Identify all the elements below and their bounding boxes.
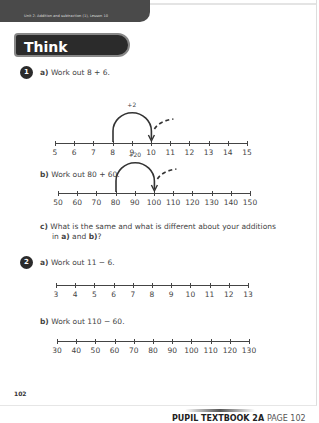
part-label: a): [40, 258, 49, 267]
footer-shadow: [185, 409, 255, 412]
tick-mark: [74, 141, 75, 146]
tick-mark: [75, 283, 76, 288]
tick-label: 13: [243, 290, 253, 299]
tick-mark: [212, 191, 213, 196]
tick-mark: [58, 191, 59, 196]
tick-label: 4: [73, 290, 78, 299]
tick-mark: [247, 141, 248, 146]
tick-label: 12: [224, 290, 234, 299]
tick-mark: [210, 283, 211, 288]
top-rule: [150, 3, 316, 5]
tick-mark: [56, 283, 57, 288]
tick-label: 6: [111, 290, 116, 299]
tick-mark: [172, 339, 173, 344]
tick-label: 5: [53, 148, 58, 157]
tick-mark: [77, 191, 78, 196]
tick-mark: [114, 283, 115, 288]
footer-label: PUPIL TEXTBOOK 2A PAGE 102: [172, 414, 306, 423]
question-number-badge: 2: [20, 256, 33, 269]
tick-label: 6: [72, 148, 77, 157]
tick-mark: [249, 339, 250, 344]
question-2b: b) Work out 110 − 60.: [40, 317, 125, 326]
tick-label: 110: [166, 198, 180, 207]
page-number: 102: [14, 390, 27, 397]
tick-mark: [115, 339, 116, 344]
tick-label: 7: [130, 290, 135, 299]
tick-label: 9: [169, 290, 174, 299]
tick-mark: [250, 191, 251, 196]
tick-label: 100: [147, 198, 161, 207]
tick-label: 80: [111, 198, 121, 207]
question-1b: b) Work out 80 + 60.: [40, 170, 120, 179]
jump-arrow-icon: [116, 159, 194, 193]
tick-mark: [96, 191, 97, 196]
tick-label: 50: [53, 198, 63, 207]
tick-label: 110: [203, 346, 217, 355]
tick-mark: [190, 283, 191, 288]
tick-mark: [76, 339, 77, 344]
tick-label: 130: [242, 346, 256, 355]
tick-label: 10: [146, 148, 156, 157]
tick-mark: [228, 141, 229, 146]
tick-label: 30: [52, 346, 62, 355]
tick-label: 40: [71, 346, 81, 355]
tick-label: 15: [242, 148, 252, 157]
tick-label: 60: [72, 198, 82, 207]
tick-mark: [211, 339, 212, 344]
tick-label: 14: [223, 148, 233, 157]
section-title: Think together: [14, 33, 130, 57]
tick-mark: [191, 339, 192, 344]
tick-mark: [57, 339, 58, 344]
tick-mark: [153, 339, 154, 344]
question-text: Work out 110 − 60.: [51, 317, 124, 326]
jump-arrow-icon: [113, 109, 191, 143]
question-text: Work out 11 − 6.: [51, 258, 115, 267]
question-text: Work out 8 + 6.: [51, 68, 110, 77]
tick-label: 70: [92, 198, 102, 207]
textbook-page: Unit 2: Addition and subtraction (1), Le…: [0, 0, 317, 406]
part-label: c): [40, 222, 48, 231]
question-2a: a) Work out 11 − 6.: [40, 258, 115, 267]
tick-label: 8: [150, 290, 155, 299]
jump-label: +2: [127, 101, 136, 108]
tick-label: 140: [224, 198, 238, 207]
tick-label: 11: [165, 148, 175, 157]
tick-label: 70: [129, 346, 139, 355]
tick-label: 7: [91, 148, 96, 157]
tick-label: 5: [92, 290, 97, 299]
tick-mark: [230, 339, 231, 344]
tick-mark: [209, 141, 210, 146]
tick-label: 120: [185, 198, 199, 207]
tick-label: 10: [186, 290, 196, 299]
question-text: ?: [97, 232, 101, 241]
footer-page: PAGE 102: [267, 414, 306, 423]
tick-label: 8: [110, 148, 115, 157]
tick-label: 90: [167, 346, 177, 355]
part-label: b): [40, 317, 49, 326]
question-text: What is the same and what is different a…: [50, 222, 276, 231]
tick-mark: [93, 141, 94, 146]
tick-label: 130: [204, 198, 218, 207]
question-text: Work out 80 + 60.: [51, 170, 120, 179]
breadcrumb: Unit 2: Addition and subtraction (1), Le…: [24, 14, 108, 18]
tick-label: 50: [91, 346, 101, 355]
tick-label: 150: [243, 198, 257, 207]
question-1a: a) Work out 8 + 6.: [40, 68, 110, 77]
tick-mark: [248, 283, 249, 288]
tick-label: 80: [148, 346, 158, 355]
ref-a: a): [61, 232, 70, 241]
tick-mark: [231, 191, 232, 196]
tick-label: 60: [110, 346, 120, 355]
part-label: b): [40, 170, 49, 179]
tick-label: 120: [223, 346, 237, 355]
question-number-badge: 1: [20, 66, 33, 79]
tick-label: 100: [184, 346, 198, 355]
tick-mark: [152, 283, 153, 288]
tick-mark: [95, 339, 96, 344]
footer-book: PUPIL TEXTBOOK 2A: [172, 414, 264, 423]
part-label: a): [40, 68, 49, 77]
tick-label: 13: [204, 148, 214, 157]
jump-label: +20: [128, 151, 141, 158]
tick-mark: [133, 283, 134, 288]
tick-mark: [55, 141, 56, 146]
